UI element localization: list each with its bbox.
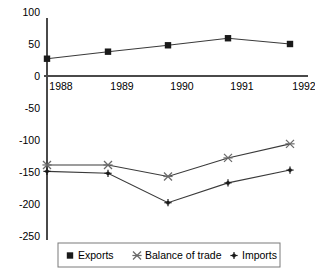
data-series-layer: [42, 35, 294, 206]
data-point-imports-1990: [164, 199, 171, 206]
x-tick-label: 1992: [292, 80, 315, 92]
legend-label-balance-of-trade: Balance of trade: [145, 249, 222, 261]
y-tick-label: 0: [34, 70, 40, 82]
legend-item-balance-of-trade[interactable]: Balance of trade: [132, 249, 221, 261]
chart-canvas: 100500-50-100-150-200-250 19881989199019…: [0, 0, 315, 277]
y-tick-label: -100: [19, 134, 40, 146]
data-point-exports-1989: [105, 48, 111, 54]
data-point-exports-1991: [225, 35, 231, 41]
data-point-imports-1989: [104, 170, 111, 177]
data-point-balance-of-trade-1991: [223, 154, 232, 162]
data-point-exports-1988: [44, 56, 50, 62]
y-tick-label: -250: [19, 230, 40, 242]
series-balance-of-trade: [42, 140, 294, 181]
legend-label-imports: Imports: [242, 249, 277, 261]
y-tick-label: 50: [28, 38, 40, 50]
series-exports: [44, 35, 293, 62]
y-tick-label: -50: [25, 102, 40, 114]
data-point-imports-1988: [43, 168, 50, 175]
x-tick-label: 1990: [170, 80, 194, 92]
y-tick-label: -150: [19, 166, 40, 178]
legend-marker-exports: [67, 252, 73, 258]
data-point-exports-1990: [165, 42, 171, 48]
y-axis-tick-labels: 100500-50-100-150-200-250: [19, 6, 40, 242]
line-chart: 100500-50-100-150-200-250 19881989199019…: [0, 0, 315, 277]
x-axis-tick-labels: 19881989199019911992: [49, 80, 315, 92]
data-point-imports-1992: [286, 166, 293, 173]
x-tick-label: 1988: [49, 80, 73, 92]
series-line-imports: [47, 170, 290, 203]
data-point-balance-of-trade-1990: [163, 172, 172, 180]
x-tick-label: 1989: [110, 80, 134, 92]
data-point-balance-of-trade-1989: [103, 161, 112, 169]
y-tick-label: 100: [22, 6, 40, 18]
y-tick-label: -200: [19, 198, 40, 210]
legend-entries: ExportsBalance of tradeImports: [67, 249, 277, 261]
series-imports: [43, 166, 293, 206]
series-line-balance-of-trade: [47, 144, 290, 177]
legend-label-exports: Exports: [78, 249, 114, 261]
data-point-exports-1992: [287, 41, 293, 47]
data-point-balance-of-trade-1992: [285, 140, 294, 148]
data-point-imports-1991: [224, 179, 231, 186]
x-tick-label: 1991: [230, 80, 254, 92]
